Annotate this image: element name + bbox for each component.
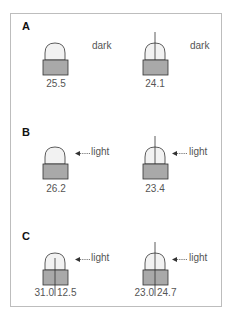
light-arrow-icon-b-right [172, 150, 187, 158]
growth-value-b-left: 26.2 [38, 183, 74, 194]
growth-value-c-left-lit: 12.5 [57, 287, 81, 298]
panel-label-b: B [22, 126, 30, 138]
growth-value-b-right: 23.4 [137, 183, 173, 194]
stimulus-label-c-left: light [91, 252, 109, 263]
growth-value-c-right-shaded: 23.0 [130, 287, 154, 298]
growth-value-a-left: 25.5 [38, 78, 74, 89]
seedling-icon-b-left [42, 146, 70, 180]
light-arrow-icon-c-left [75, 256, 90, 264]
growth-value-c-left-shaded: 31.0 [30, 287, 54, 298]
stimulus-label-c-right: light [189, 252, 207, 263]
stimulus-label-b-left: light [91, 146, 109, 157]
stimulus-label-a-right: dark [190, 40, 209, 51]
seedling-icon-a-left [42, 42, 70, 76]
light-arrow-icon-c-right [172, 256, 187, 264]
stimulus-label-a-left: dark [92, 40, 111, 51]
light-arrow-icon-b-left [75, 150, 90, 158]
panel-label-c: C [22, 230, 30, 242]
growth-value-a-right: 24.1 [137, 78, 173, 89]
seedling-tip-icon-a-right [142, 32, 170, 76]
seedling-tip-icon-b-right [142, 136, 170, 180]
stimulus-label-b-right: light [189, 146, 207, 157]
panel-label-a: A [22, 20, 30, 32]
growth-value-c-right-lit: 24.7 [157, 287, 181, 298]
